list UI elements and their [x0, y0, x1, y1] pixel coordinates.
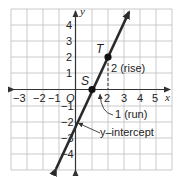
- svg-text:2: 2: [66, 51, 72, 63]
- point-s: [88, 86, 95, 93]
- intercept-label: y–intercept: [100, 126, 154, 138]
- svg-text:3: 3: [121, 92, 127, 104]
- svg-text:−1: −1: [48, 92, 61, 104]
- svg-text:−2: −2: [61, 116, 74, 128]
- svg-text:4: 4: [137, 92, 143, 104]
- coordinate-graph: y x O −3 −2 −1 2 3 4 5 4 3 2 1 −1 −2 −3 …: [0, 0, 179, 177]
- x-tick-labels: −3 −2 −1 2 3 4 5: [13, 92, 158, 104]
- x-axis-label: x: [164, 91, 170, 103]
- rise-label: 2 (rise): [111, 62, 145, 74]
- svg-text:−2: −2: [33, 92, 46, 104]
- point-t: [104, 53, 111, 60]
- svg-text:3: 3: [66, 35, 72, 47]
- intercept-arrow-icon: [78, 123, 100, 133]
- svg-text:4: 4: [66, 19, 72, 31]
- svg-text:2: 2: [104, 92, 110, 104]
- point-t-label: T: [96, 42, 105, 56]
- point-s-label: S: [81, 74, 89, 88]
- svg-text:−3: −3: [13, 92, 26, 104]
- svg-text:5: 5: [152, 92, 158, 104]
- run-label: 1 (run): [115, 108, 147, 120]
- y-axis-label: y: [79, 5, 85, 17]
- svg-text:−1: −1: [61, 100, 74, 112]
- svg-text:1: 1: [66, 67, 72, 79]
